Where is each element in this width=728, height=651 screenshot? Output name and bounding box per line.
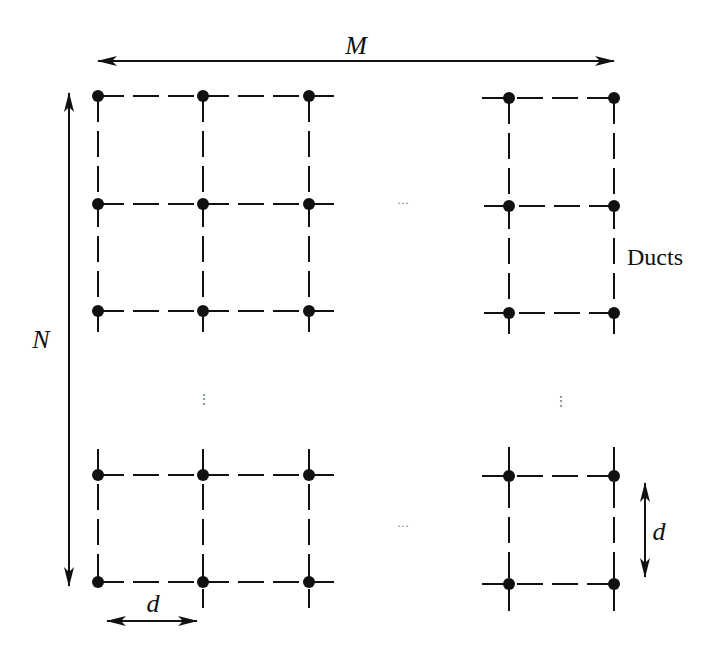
grid-nodes-bottom-right	[503, 470, 620, 590]
grid-block-top-right	[482, 98, 614, 340]
d-vertical-label: d	[653, 517, 667, 546]
n-label: N	[31, 325, 51, 354]
horizontal-ellipsis-bottom: ···	[397, 519, 409, 533]
grid-block-bottom-right	[482, 447, 614, 611]
vertical-ellipsis-left: ⋮	[197, 392, 211, 407]
grid-block-bottom-left	[98, 449, 336, 608]
d-horizontal-label: d	[147, 589, 161, 618]
ducts-label: Ducts	[627, 244, 683, 270]
duct-grid-diagram: M N Ducts	[0, 0, 728, 651]
horizontal-ellipsis-top: ···	[397, 196, 409, 210]
grid-block-top-left	[98, 96, 336, 338]
m-label: M	[344, 31, 368, 60]
vertical-ellipsis-right: ⋮	[554, 394, 568, 409]
